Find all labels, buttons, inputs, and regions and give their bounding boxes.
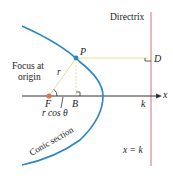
x-axis-label: x	[163, 90, 167, 100]
directrix-label: Directrix	[110, 13, 144, 23]
focus-label-line2: origin	[18, 73, 41, 83]
r-line	[49, 58, 76, 96]
x-equals-k-label: x = k	[123, 146, 143, 156]
conic-diagram: Directrix P D Focus at origin r F B r co…	[0, 0, 173, 180]
k-axis-label: k	[141, 99, 145, 109]
theta-arc-icon	[54, 90, 57, 97]
right-angle-b-icon	[76, 92, 80, 96]
rcos-pointer	[61, 97, 63, 108]
point-p-label: P	[80, 47, 86, 57]
point-b-label: B	[72, 99, 78, 109]
point-p-dot	[74, 56, 79, 61]
x-axis-arrow-icon	[156, 94, 162, 99]
rcos-theta-label: r cos θ	[42, 109, 68, 119]
point-d-label: D	[154, 54, 161, 64]
focus-label-line1: Focus at	[12, 62, 44, 72]
r-label: r	[57, 68, 61, 78]
diagram-graphics	[0, 0, 173, 180]
